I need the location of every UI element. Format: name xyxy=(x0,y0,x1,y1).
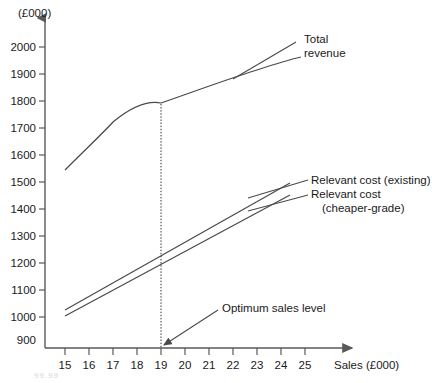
y-tick-label: 1100 xyxy=(11,284,36,296)
y-tick-label: 1000 xyxy=(10,311,36,323)
series-label-total-revenue-line2: revenue xyxy=(304,47,346,59)
x-axis-tick-labels: 15 16 17 18 19 20 21 22 23 24 25 xyxy=(59,359,312,371)
optimum-sales-level-arrow xyxy=(164,310,218,345)
y-tick-label: 1800 xyxy=(10,95,36,107)
x-tick-label: 23 xyxy=(251,359,264,371)
annotation-optimum-sales-level: Optimum sales level xyxy=(222,302,326,314)
y-tick-label: 1400 xyxy=(10,203,36,215)
x-tick-label: 16 xyxy=(83,359,96,371)
y-tick-label: 2000 xyxy=(10,41,36,53)
y-axis-ticks xyxy=(39,47,45,317)
x-axis-title: Sales (£000) xyxy=(334,359,399,371)
x-tick-label: 18 xyxy=(131,359,144,371)
x-tick-label: 25 xyxy=(299,359,312,371)
y-axis-unit-label: (£000) xyxy=(18,7,51,19)
series-label-relevant-cost-cheaper-grade-line2: (cheaper-grade) xyxy=(322,202,405,214)
x-tick-label: 22 xyxy=(227,359,240,371)
y-tick-label: 1300 xyxy=(10,230,36,242)
x-axis-ticks xyxy=(65,348,305,355)
page-artifact-text: 99.99 xyxy=(34,371,59,380)
series-line-relevant-cost-existing xyxy=(65,183,290,310)
y-tick-label: 1600 xyxy=(10,149,36,161)
x-tick-label: 21 xyxy=(203,359,216,371)
chart-svg: 2000 1900 1800 1700 1600 1500 1400 1300 … xyxy=(0,0,432,383)
x-tick-label: 15 xyxy=(59,359,72,371)
y-tick-label: 1900 xyxy=(10,68,36,80)
series-line-total-revenue xyxy=(65,57,301,170)
leader-line-relevant-cost-cheaper-grade xyxy=(248,195,308,211)
y-axis-tick-labels: 2000 1900 1800 1700 1600 1500 1400 1300 … xyxy=(10,41,36,346)
x-tick-label: 17 xyxy=(107,359,120,371)
y-tick-label: 1200 xyxy=(10,257,36,269)
chart-container: 2000 1900 1800 1700 1600 1500 1400 1300 … xyxy=(0,0,432,383)
series-label-relevant-cost-cheaper-grade-line1: Relevant cost xyxy=(311,188,381,200)
x-tick-label: 20 xyxy=(179,359,192,371)
series-label-total-revenue-line1: Total xyxy=(304,33,328,45)
y-tick-label: 1700 xyxy=(10,122,36,134)
series-label-relevant-cost-existing: Relevant cost (existing) xyxy=(311,174,431,186)
x-tick-label: 19 xyxy=(155,359,168,371)
y-tick-label: 1500 xyxy=(10,176,36,188)
x-tick-label: 24 xyxy=(275,359,288,371)
series-line-relevant-cost-cheaper-grade xyxy=(65,195,290,316)
y-tick-label: 900 xyxy=(17,334,36,346)
leader-line-relevant-cost-existing xyxy=(248,180,308,198)
